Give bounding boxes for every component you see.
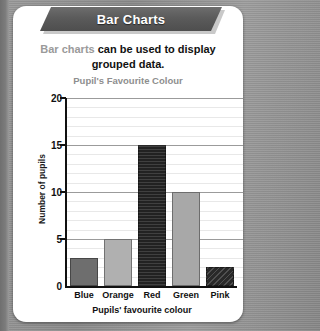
bar	[104, 239, 131, 286]
intro-text: Bar charts can be used to display groupe…	[25, 42, 231, 72]
bar	[172, 192, 199, 286]
y-axis-tick-labels: 05101520	[43, 92, 62, 286]
y-axis-tick-mark	[60, 191, 66, 193]
y-axis-tick-label: 0	[44, 281, 62, 292]
bar	[138, 145, 165, 286]
intro-lead: Bar charts	[40, 43, 94, 55]
bar	[206, 267, 233, 286]
y-axis-tick-mark	[60, 97, 66, 99]
chart-title: Pupil's Favourite Colour	[25, 75, 231, 86]
x-axis-tick-label: Blue	[67, 290, 101, 300]
y-axis-tick-mark	[60, 144, 66, 146]
title-banner: Bar Charts	[13, 6, 243, 36]
lesson-card: Bar Charts Bar charts can be used to dis…	[13, 6, 243, 322]
page-title: Bar Charts	[97, 12, 165, 27]
bar	[70, 258, 97, 286]
x-axis-tick-label: Green	[169, 290, 203, 300]
x-axis-tick-label: Pink	[203, 290, 237, 300]
x-axis-tick-label: Orange	[101, 290, 135, 300]
x-axis-title: Pupils' favourite colour	[47, 305, 237, 315]
x-axis-tick-labels: BlueOrangeRedGreenPink	[67, 290, 237, 304]
intro-rest: can be used to display grouped data.	[92, 43, 216, 70]
title-banner-plate: Bar Charts	[40, 7, 222, 31]
x-axis-line	[65, 286, 237, 288]
bar-series	[67, 98, 237, 286]
bar-chart: Number of pupils 05101520 BlueOrangeRedG…	[27, 92, 237, 320]
x-axis-tick-label: Red	[135, 290, 169, 300]
y-axis-tick-mark	[60, 238, 66, 240]
